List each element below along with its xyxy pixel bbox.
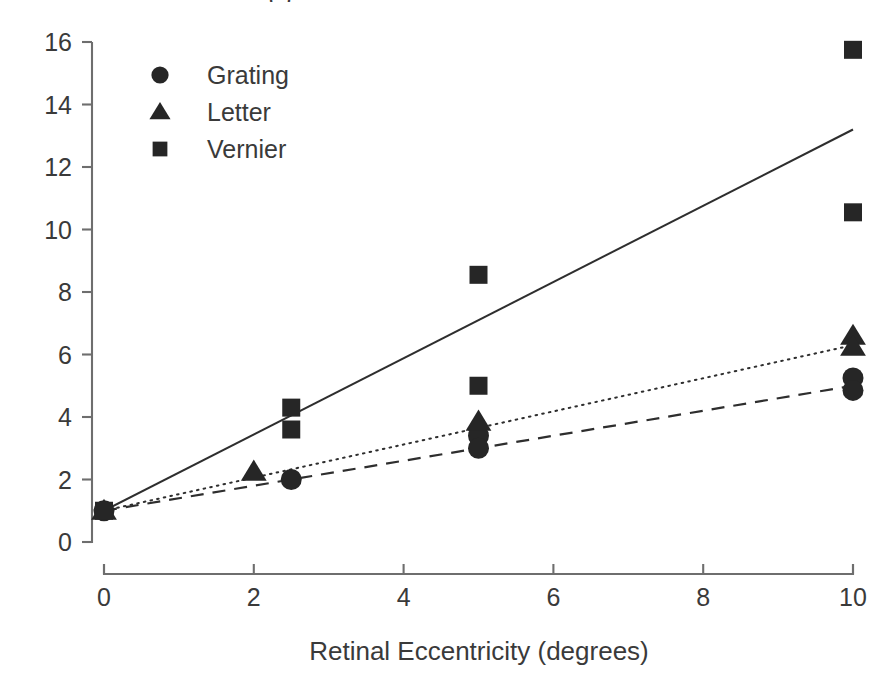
y-tick-label: 16	[44, 28, 72, 56]
data-point-vernier	[282, 399, 300, 417]
legend-marker-letter	[149, 102, 170, 119]
x-axis-title: Retinal Eccentricity (degrees)	[309, 636, 649, 666]
x-tick-label: 2	[247, 583, 261, 611]
data-point-vernier	[844, 203, 862, 221]
x-tick-label: 8	[696, 583, 710, 611]
y-tick-label: 4	[58, 403, 72, 431]
y-tick-label: 6	[58, 341, 72, 369]
data-point-letter	[241, 460, 267, 481]
y-axis: 0246810121416	[44, 28, 92, 556]
data-point-grating	[468, 438, 489, 459]
plot-canvas: 0246810121416 0246810 Retinal Eccentrici…	[0, 0, 893, 682]
y-tick-label: 10	[44, 216, 72, 244]
x-axis: 0246810 Retinal Eccentricity (degrees)	[97, 564, 867, 666]
legend-marker-grating	[151, 66, 168, 83]
y-tick-label: 0	[58, 528, 72, 556]
y-tick-label: 2	[58, 466, 72, 494]
data-point-vernier	[470, 377, 488, 395]
data-point-grating	[843, 380, 864, 401]
x-axis-tick-labels: 0246810	[97, 583, 867, 611]
data-point-letter	[840, 335, 866, 356]
x-tick-label: 4	[397, 583, 411, 611]
x-tick-label: 6	[546, 583, 560, 611]
legend-label-grating: Grating	[207, 61, 289, 89]
data-point-vernier	[844, 41, 862, 59]
x-tick-label: 10	[839, 583, 867, 611]
scatter-plot-figure: ( ) 0246810121416 0246810 Retinal Eccent…	[0, 0, 893, 682]
y-axis-ticks	[82, 42, 92, 542]
legend-label-letter: Letter	[207, 98, 271, 126]
legend-label-vernier: Vernier	[207, 135, 286, 163]
cut-off-plot-title: ( )	[0, 0, 560, 2]
x-axis-line	[104, 564, 853, 574]
data-point-letter	[466, 410, 492, 431]
legend-marker-vernier	[153, 142, 168, 157]
legend: GratingLetterVernier	[149, 61, 289, 163]
data-point-grating	[281, 469, 302, 490]
y-tick-label: 14	[44, 91, 72, 119]
x-tick-label: 0	[97, 583, 111, 611]
y-tick-label: 12	[44, 153, 72, 181]
data-point-vernier	[95, 502, 113, 520]
y-tick-label: 8	[58, 278, 72, 306]
data-point-vernier	[470, 266, 488, 284]
y-axis-tick-labels: 0246810121416	[44, 28, 72, 556]
x-axis-ticks	[104, 564, 853, 574]
data-point-vernier	[282, 421, 300, 439]
